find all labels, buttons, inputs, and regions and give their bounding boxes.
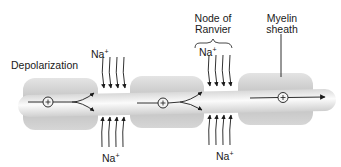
- ion-charge: +: [212, 46, 216, 53]
- plus-charge-icon-1: [43, 97, 53, 107]
- node-2-bottom-ion-label: Na+: [216, 148, 234, 162]
- plus-charge-icon-3: [278, 93, 288, 103]
- node-2-top-ion-label: Na+: [199, 44, 217, 58]
- ion-symbol: Na: [102, 152, 115, 164]
- ion-symbol: Na: [91, 48, 104, 60]
- ion-symbol: Na: [216, 150, 229, 162]
- ion-charge: +: [115, 152, 119, 159]
- ion-charge: +: [104, 48, 108, 55]
- plus-charge-icon-2: [158, 98, 168, 108]
- node-1-top-ion-label: Na+: [91, 46, 109, 60]
- myelin-sheath-label: Myelin sheath: [262, 13, 302, 35]
- ion-symbol: Na: [199, 46, 212, 58]
- myelin-line2: sheath: [262, 24, 302, 35]
- depolarization-label: Depolarization: [11, 60, 78, 71]
- node-of-ranvier-line2: Ranvier: [190, 24, 236, 35]
- node-of-ranvier-label: Node of Ranvier: [190, 13, 236, 35]
- ion-charge: +: [229, 150, 233, 157]
- node-1-bottom-ion-label: Na+: [102, 150, 120, 164]
